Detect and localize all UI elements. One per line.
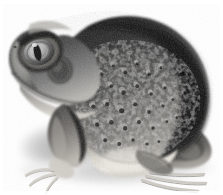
edge-fade-right [220,0,223,195]
photo-grain-global [0,0,223,195]
edge-fade-bottom [0,191,223,195]
photograph-canvas: Grayscale side-profile photograph of a w… [0,0,223,195]
edge-fade-top [0,0,223,4]
edge-fade-left [0,0,3,195]
frog-photograph [0,0,223,195]
